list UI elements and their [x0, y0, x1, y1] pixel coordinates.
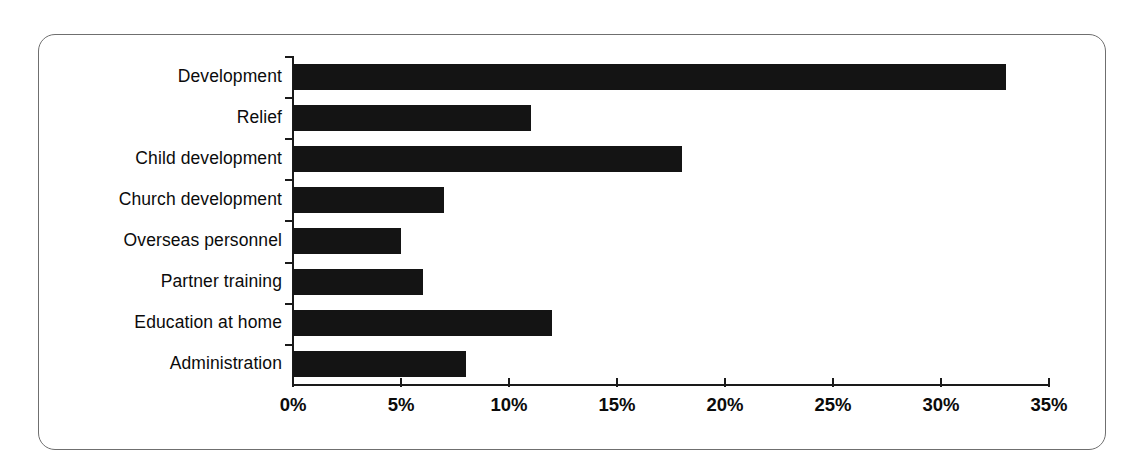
x-axis-tick	[292, 378, 294, 387]
x-axis-tick-label: 15%	[582, 396, 652, 415]
chart-figure: DevelopmentReliefChild developmentChurch…	[0, 0, 1148, 471]
x-axis-line	[292, 384, 1050, 386]
category-label: Administration	[60, 355, 282, 373]
bar	[293, 351, 466, 377]
bar-chart-plot-area: DevelopmentReliefChild developmentChurch…	[0, 0, 1148, 471]
x-axis-tick	[832, 378, 834, 387]
bar	[293, 310, 552, 336]
x-axis-tick	[616, 378, 618, 387]
y-axis-tick	[285, 97, 294, 99]
x-axis-tick-label: 25%	[798, 396, 868, 415]
x-axis-tick-label: 30%	[906, 396, 976, 415]
bar	[293, 187, 444, 213]
bar	[293, 64, 1006, 90]
x-axis-tick	[940, 378, 942, 387]
x-axis-tick-label: 5%	[366, 396, 436, 415]
category-label: Partner training	[60, 273, 282, 291]
y-axis-tick	[285, 179, 294, 181]
y-axis-tick	[285, 262, 294, 264]
x-axis-tick-label: 20%	[690, 396, 760, 415]
y-axis-tick	[285, 220, 294, 222]
bar	[293, 105, 531, 131]
category-label: Child development	[60, 150, 282, 168]
bar	[293, 146, 682, 172]
category-label: Education at home	[60, 314, 282, 332]
y-axis-tick	[285, 56, 294, 58]
y-axis-tick	[285, 138, 294, 140]
x-axis-tick	[508, 378, 510, 387]
category-label: Overseas personnel	[60, 232, 282, 250]
x-axis-tick	[724, 378, 726, 387]
x-axis-tick-label: 0%	[258, 396, 328, 415]
bar	[293, 228, 401, 254]
bar	[293, 269, 423, 295]
y-axis-tick	[285, 303, 294, 305]
x-axis-tick	[1048, 378, 1050, 387]
category-label: Church development	[60, 191, 282, 209]
x-axis-tick	[400, 378, 402, 387]
x-axis-tick-label: 35%	[1014, 396, 1084, 415]
x-axis-tick-label: 10%	[474, 396, 544, 415]
category-label: Relief	[60, 109, 282, 127]
y-axis-tick	[285, 344, 294, 346]
category-label: Development	[60, 68, 282, 86]
